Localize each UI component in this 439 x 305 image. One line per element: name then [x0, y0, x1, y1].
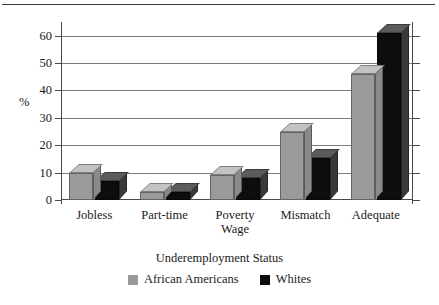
- y-axis-tick-right: [412, 63, 420, 64]
- y-axis-tick: [55, 173, 62, 174]
- chart-legend: African AmericansWhites: [0, 272, 439, 287]
- y-axis-tick-right: [412, 36, 420, 37]
- x-category-label: Adequate: [337, 208, 415, 222]
- legend-item: Whites: [260, 272, 311, 287]
- bar-african-americans: [140, 192, 164, 200]
- bar-side-face: [304, 123, 312, 200]
- y-axis-tick-right: [412, 118, 420, 119]
- y-axis-tick-right: [412, 145, 420, 146]
- y-axis-tick-label: 10: [40, 166, 53, 179]
- y-axis-spine-left: [61, 22, 62, 204]
- legend-swatch-gray: [128, 275, 138, 285]
- x-category-label: Part-time: [126, 208, 204, 222]
- y-axis-tick: [55, 36, 62, 37]
- bar-group: [140, 22, 190, 200]
- bar-african-americans: [69, 173, 93, 200]
- legend-item: African Americans: [128, 272, 239, 287]
- y-axis-tick-label: 0: [46, 194, 52, 207]
- x-category-label-line: Poverty: [196, 208, 274, 222]
- x-category-label: PovertyWage: [196, 208, 274, 236]
- bar-front-face: [140, 192, 164, 200]
- bar-front-face: [351, 74, 375, 200]
- bar-front-face: [210, 175, 234, 200]
- x-category-label-line: Wage: [196, 222, 274, 236]
- y-axis-spine-right: [412, 22, 413, 204]
- x-category-label: Jobless: [55, 208, 133, 222]
- bar-front-face: [280, 132, 304, 200]
- chart-figure: % 0102030405060 JoblessPart-timePovertyW…: [0, 0, 439, 305]
- bar-group: [351, 22, 401, 200]
- y-axis-tick-label: 20: [40, 139, 53, 152]
- bar-group: [69, 22, 119, 200]
- y-axis-tick-right: [412, 200, 420, 201]
- bar-african-americans: [210, 175, 234, 200]
- y-axis-tick: [55, 90, 62, 91]
- y-axis-tick-label: 60: [40, 29, 53, 42]
- y-axis-tick: [55, 145, 62, 146]
- y-axis-tick-label: 30: [40, 112, 53, 125]
- bar-side-face: [401, 24, 409, 200]
- legend-label: African Americans: [144, 272, 239, 287]
- y-axis-tick-label: 50: [40, 57, 53, 70]
- bar-group: [280, 22, 330, 200]
- x-category-label-line: Part-time: [126, 208, 204, 222]
- x-category-label-line: Adequate: [337, 208, 415, 222]
- top-rule-divider: [2, 4, 435, 5]
- y-axis-tick: [55, 63, 62, 64]
- bar-african-americans: [351, 74, 375, 200]
- legend-label: Whites: [276, 272, 311, 287]
- bar-group: [210, 22, 260, 200]
- plot-area: 0102030405060: [61, 22, 413, 204]
- y-axis-tick-label: 40: [40, 84, 53, 97]
- y-axis-label: %: [19, 95, 29, 110]
- legend-swatch-black: [260, 275, 270, 285]
- bar-side-face: [375, 65, 383, 200]
- x-category-label-line: Mismatch: [266, 208, 344, 222]
- bar-african-americans: [280, 132, 304, 200]
- x-category-label-line: Jobless: [55, 208, 133, 222]
- y-axis-tick: [55, 118, 62, 119]
- bar-front-face: [69, 173, 93, 200]
- x-category-label: Mismatch: [266, 208, 344, 222]
- y-axis-tick-right: [412, 173, 420, 174]
- x-axis-title: Underemployment Status: [0, 251, 439, 266]
- y-axis-tick-right: [412, 90, 420, 91]
- y-axis-tick: [55, 200, 62, 201]
